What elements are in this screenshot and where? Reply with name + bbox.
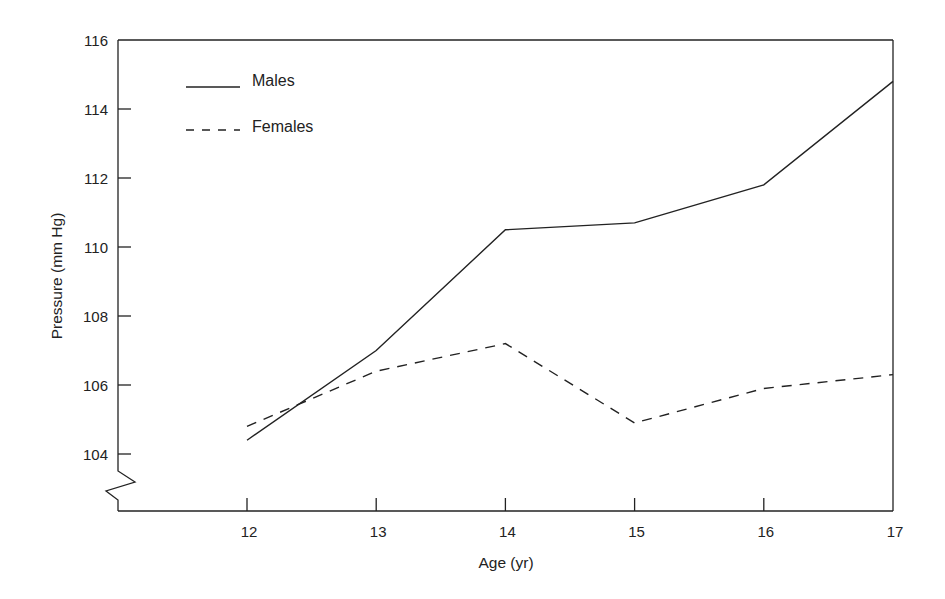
x-tick-label: 16 [757, 523, 774, 540]
x-tick-label: 13 [370, 523, 387, 540]
legend-males-label: Males [252, 72, 295, 89]
y-tick-label: 106 [83, 377, 108, 394]
y-tick-label: 114 [84, 101, 108, 118]
males-line [247, 81, 893, 440]
x-axis-title: Age (yr) [478, 554, 533, 571]
y-axis [106, 40, 135, 511]
plot-frame [106, 40, 893, 511]
y-tick-label: 116 [84, 32, 108, 49]
legend: Males Females [186, 72, 313, 135]
females-line [247, 344, 893, 427]
x-tick-label: 17 [887, 523, 904, 540]
series-lines [247, 81, 893, 440]
x-tick-label: 12 [241, 523, 258, 540]
chart: 116114112110108106104 121314151617 Males… [0, 0, 945, 599]
legend-females-label: Females [252, 118, 313, 135]
y-ticks: 116114112110108106104 [83, 32, 131, 463]
x-tick-label: 15 [628, 523, 645, 540]
y-tick-label: 108 [83, 308, 108, 325]
x-tick-label: 14 [499, 523, 516, 540]
y-tick-label: 110 [84, 239, 108, 256]
y-tick-label: 112 [84, 170, 108, 187]
x-ticks: 121314151617 [241, 498, 904, 540]
y-axis-title: Pressure (mm Hg) [48, 213, 65, 340]
y-tick-label: 104 [83, 446, 108, 463]
